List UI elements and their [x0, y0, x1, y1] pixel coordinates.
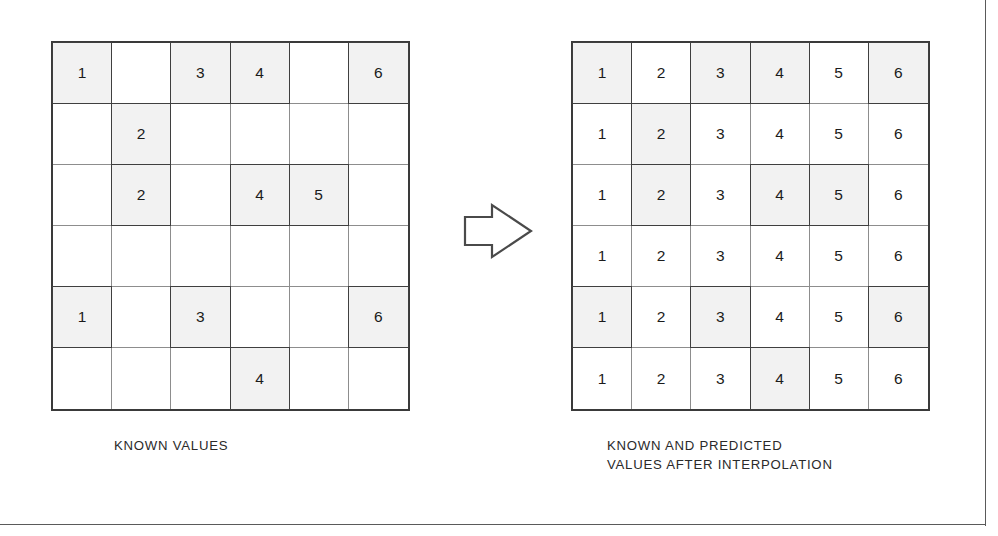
- known-cell-r5c5: [290, 287, 349, 348]
- known-cell-r2c4: [231, 104, 290, 165]
- known-cell-r1c1: 1: [53, 43, 112, 104]
- known-cell-r1c3: 3: [171, 43, 230, 104]
- known-values-panel: 134622451364: [51, 41, 410, 411]
- known-cell-r5c1: 1: [53, 287, 112, 348]
- interpolated-cell-r5c5: 5: [810, 287, 869, 348]
- known-cell-r2c2: 2: [112, 104, 171, 165]
- known-cell-r6c3: [171, 348, 230, 409]
- interpolated-cell-r4c5: 5: [810, 226, 869, 287]
- interpolated-cell-r1c6: 6: [869, 43, 928, 104]
- right-divider-rule: [985, 0, 986, 526]
- known-cell-r2c1: [53, 104, 112, 165]
- interpolated-cell-r6c1: 1: [573, 348, 632, 409]
- block-arrow-right-icon: [462, 200, 534, 262]
- known-cell-r1c6: 6: [349, 43, 408, 104]
- interpolated-values-caption: KNOWN AND PREDICTED VALUES AFTER INTERPO…: [607, 436, 833, 474]
- interpolated-cell-r2c5: 5: [810, 104, 869, 165]
- bottom-divider-rule: [0, 524, 986, 525]
- known-cell-r4c6: [349, 226, 408, 287]
- known-cell-r6c6: [349, 348, 408, 409]
- interpolated-cell-r6c4: 4: [751, 348, 810, 409]
- interpolated-cell-r6c6: 6: [869, 348, 928, 409]
- known-cell-r1c2: [112, 43, 171, 104]
- known-cell-r3c3: [171, 165, 230, 226]
- interpolated-cell-r5c2: 2: [632, 287, 691, 348]
- figure-canvas: 134622451364 123456123456123456123456123…: [0, 0, 986, 524]
- known-cell-r2c3: [171, 104, 230, 165]
- interpolated-cell-r1c5: 5: [810, 43, 869, 104]
- interpolated-cell-r3c6: 6: [869, 165, 928, 226]
- interpolated-cell-r1c1: 1: [573, 43, 632, 104]
- known-cell-r4c1: [53, 226, 112, 287]
- interpolated-cell-r6c5: 5: [810, 348, 869, 409]
- interpolated-cell-r2c1: 1: [573, 104, 632, 165]
- interpolated-cell-r1c2: 2: [632, 43, 691, 104]
- known-cell-r1c4: 4: [231, 43, 290, 104]
- interpolated-cell-r6c3: 3: [691, 348, 750, 409]
- interpolated-cell-r5c6: 6: [869, 287, 928, 348]
- known-cell-r5c6: 6: [349, 287, 408, 348]
- known-cell-r4c4: [231, 226, 290, 287]
- known-cell-r5c4: [231, 287, 290, 348]
- interpolated-cell-r4c4: 4: [751, 226, 810, 287]
- interpolated-cell-r1c3: 3: [691, 43, 750, 104]
- known-cell-r4c2: [112, 226, 171, 287]
- interpolated-cell-r4c6: 6: [869, 226, 928, 287]
- interpolated-cell-r3c2: 2: [632, 165, 691, 226]
- interpolated-cell-r5c1: 1: [573, 287, 632, 348]
- interpolated-cell-r2c2: 2: [632, 104, 691, 165]
- interpolated-cell-r5c3: 3: [691, 287, 750, 348]
- interpolated-values-grid: 123456123456123456123456123456123456: [571, 41, 930, 411]
- known-cell-r3c2: 2: [112, 165, 171, 226]
- interpolated-cell-r3c5: 5: [810, 165, 869, 226]
- known-cell-r6c4: 4: [231, 348, 290, 409]
- interpolated-cell-r1c4: 4: [751, 43, 810, 104]
- known-cell-r2c6: [349, 104, 408, 165]
- known-cell-r4c5: [290, 226, 349, 287]
- interpolated-cell-r4c2: 2: [632, 226, 691, 287]
- interpolated-cell-r4c1: 1: [573, 226, 632, 287]
- interpolated-cell-r5c4: 4: [751, 287, 810, 348]
- known-cell-r5c3: 3: [171, 287, 230, 348]
- known-cell-r1c5: [290, 43, 349, 104]
- interpolated-cell-r2c4: 4: [751, 104, 810, 165]
- interpolated-cell-r2c6: 6: [869, 104, 928, 165]
- interpolated-cell-r3c1: 1: [573, 165, 632, 226]
- known-values-caption: KNOWN VALUES: [114, 436, 228, 455]
- known-cell-r6c1: [53, 348, 112, 409]
- interpolated-cell-r3c3: 3: [691, 165, 750, 226]
- interpolated-cell-r6c2: 2: [632, 348, 691, 409]
- interpolated-cell-r4c3: 3: [691, 226, 750, 287]
- known-cell-r6c5: [290, 348, 349, 409]
- known-cell-r5c2: [112, 287, 171, 348]
- known-cell-r3c4: 4: [231, 165, 290, 226]
- known-cell-r4c3: [171, 226, 230, 287]
- known-cell-r3c1: [53, 165, 112, 226]
- known-cell-r3c5: 5: [290, 165, 349, 226]
- known-values-grid: 134622451364: [51, 41, 410, 411]
- interpolated-cell-r3c4: 4: [751, 165, 810, 226]
- known-cell-r6c2: [112, 348, 171, 409]
- known-cell-r2c5: [290, 104, 349, 165]
- interpolated-values-panel: 123456123456123456123456123456123456: [571, 41, 930, 411]
- known-cell-r3c6: [349, 165, 408, 226]
- interpolated-cell-r2c3: 3: [691, 104, 750, 165]
